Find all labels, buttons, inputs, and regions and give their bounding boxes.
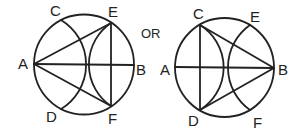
right-label-f: F bbox=[253, 114, 262, 131]
left-label-e: E bbox=[108, 3, 118, 20]
right-line-db bbox=[200, 68, 274, 110]
or-label: OR bbox=[141, 26, 161, 41]
right-figure: C E A B D F bbox=[160, 5, 288, 131]
left-label-c: C bbox=[50, 2, 61, 19]
geometry-diagram: C E A B D F OR C E A B D F bbox=[0, 0, 293, 138]
left-label-a: A bbox=[18, 55, 28, 72]
left-label-b: B bbox=[136, 61, 146, 78]
right-line-cb bbox=[200, 25, 274, 68]
right-label-a: A bbox=[160, 61, 170, 78]
left-diameter-ab bbox=[34, 64, 134, 65]
right-label-e: E bbox=[250, 8, 260, 25]
left-label-f: F bbox=[108, 110, 117, 127]
left-figure: C E A B D F bbox=[18, 2, 146, 127]
right-label-c: C bbox=[193, 5, 204, 22]
left-label-d: D bbox=[46, 108, 57, 125]
right-label-b: B bbox=[278, 61, 288, 78]
right-label-d: D bbox=[188, 112, 199, 129]
